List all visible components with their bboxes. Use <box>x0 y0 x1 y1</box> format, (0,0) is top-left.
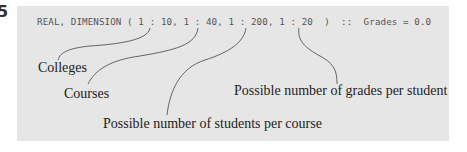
annotation-grades-per-student: Possible number of grades per student <box>234 83 447 99</box>
annotation-students-per-course: Possible number of students per course <box>103 116 322 132</box>
leader-line-colleges <box>58 28 150 60</box>
leader-line-students <box>167 28 246 115</box>
annotation-colleges: Colleges <box>38 60 87 76</box>
annotation-courses: Courses <box>64 86 109 102</box>
leader-line-grades <box>299 28 337 84</box>
